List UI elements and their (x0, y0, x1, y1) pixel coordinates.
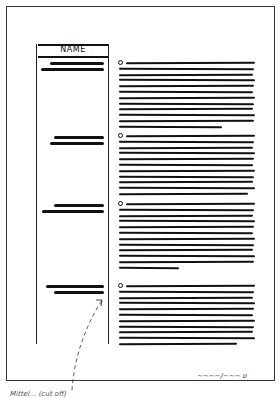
dashed-arrow-icon (60, 292, 110, 392)
handwritten-caption: Mittel... (cut off) (10, 390, 67, 398)
signature: ~~~~/~~~ ʋ (197, 372, 247, 380)
section-bullet-icon (118, 283, 123, 288)
sidebar-name-header: NAME (38, 44, 108, 58)
text-line (119, 238, 255, 240)
redacted-sidebar-text (54, 204, 104, 207)
redacted-sidebar-text (50, 62, 104, 65)
name-label: NAME (38, 45, 108, 54)
section-bullet-icon (118, 60, 123, 65)
text-line (119, 73, 253, 75)
redacted-sidebar-text (42, 210, 104, 213)
redacted-sidebar-text (41, 68, 104, 71)
text-line (119, 175, 254, 177)
text-line (119, 170, 255, 172)
text-line (119, 296, 253, 298)
text-line (119, 320, 255, 322)
text-line (119, 243, 254, 245)
text-line (119, 267, 179, 269)
redacted-sidebar-text (46, 285, 104, 288)
text-line (119, 325, 254, 327)
redacted-sidebar-text (50, 142, 104, 145)
text-line (119, 102, 254, 104)
text-line (119, 126, 222, 128)
section-bullet-icon (118, 133, 123, 138)
section-bullet-icon (118, 201, 123, 206)
text-line (119, 214, 253, 216)
redacted-sidebar-text (54, 136, 104, 139)
text-line (119, 97, 255, 99)
text-line (119, 146, 253, 148)
